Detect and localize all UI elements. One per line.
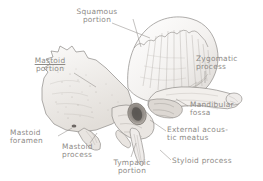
- label-tympanic-portion: Tympanicportion: [104, 159, 160, 176]
- label-zygomatic-process: Zygomaticprocess: [196, 55, 258, 72]
- label-styloid-process-line1: Styloid process: [172, 157, 260, 165]
- label-external-acoustic-meatus: External acous-tic meatus: [167, 126, 259, 143]
- label-external-acoustic-meatus-line2: tic meatus: [167, 134, 259, 142]
- label-zygomatic-process-line2: process: [196, 63, 258, 71]
- label-mastoid-portion: Mastoidportion: [22, 57, 78, 74]
- label-mastoid-portion-line2: portion: [22, 65, 78, 73]
- label-tympanic-portion-line2: portion: [104, 167, 160, 175]
- leader-styloid: [160, 150, 171, 160]
- anatomical-figure: SquamousportionMastoidportionZygomaticpr…: [0, 0, 263, 181]
- label-squamous-portion-line2: portion: [66, 16, 128, 24]
- label-mandibular-fossa: Mandibularfossa: [190, 101, 260, 118]
- label-mandibular-fossa-line2: fossa: [190, 109, 260, 117]
- mastoid-foramen-opening: [72, 125, 77, 128]
- label-mastoid-foramen: Mastoidforamen: [10, 129, 66, 146]
- temporal-bone-illustration: [0, 0, 263, 181]
- label-mastoid-process: Mastoidprocess: [62, 143, 116, 160]
- label-styloid-process: Styloid process: [172, 157, 260, 165]
- label-squamous-portion: Squamousportion: [66, 8, 128, 25]
- label-mastoid-foramen-line2: foramen: [10, 137, 66, 145]
- leader-squamous: [112, 23, 150, 38]
